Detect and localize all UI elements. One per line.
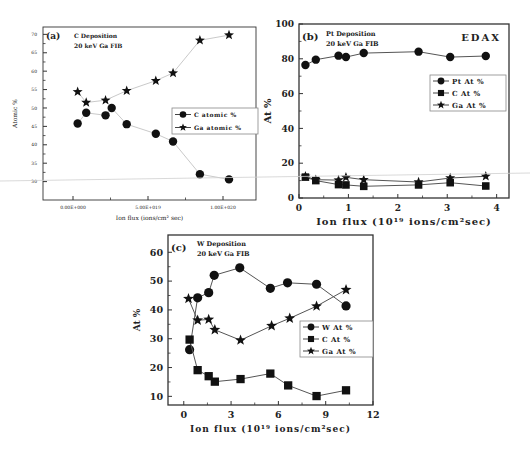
y-tick-label: 60 [281,89,294,99]
legend-square-marker [438,90,444,96]
x-tick-label: 4 [494,203,500,213]
x-tick-label: 0 [296,203,302,213]
x-tick-label: 12 [366,409,379,420]
x-tick-label: 5.00E+019 [135,205,161,210]
y-tick-label: 30 [31,179,37,184]
chart-title: C Deposition [74,32,118,40]
data-point-star-marker [209,324,220,334]
y-tick-label: 50 [31,106,37,111]
data-point-circle-marker [193,293,202,302]
legend: Pt At %C At %Ga At % [430,75,506,111]
data-point-star-marker [183,293,194,303]
legend-circle-marker [308,324,315,331]
data-point-circle-marker [196,170,204,178]
data-point-circle-marker [225,175,233,183]
data-point-circle-marker [73,119,81,127]
data-point-square-marker [211,378,219,386]
data-point-square-marker [312,392,320,400]
x-tick-label: 9 [322,409,329,420]
chart-panel-b: 02040608010001234Ion flux (10¹⁹ ions/cm²… [262,19,509,227]
y-tick-label: 0 [288,193,294,203]
series-line [305,177,485,186]
y-tick-label: 70 [31,32,37,37]
data-point-circle-marker [108,104,116,112]
data-point-circle-marker [204,288,213,297]
data-point-circle-marker [266,284,275,293]
series-line [305,176,485,182]
y-tick-label: 40 [31,142,37,147]
data-point-circle-marker [101,111,109,119]
panel-label: (a) [46,31,60,41]
data-point-square-marker [342,181,350,189]
chart-subtitle: 20 keV Ga FIB [326,40,379,48]
data-point-square-marker [236,375,244,383]
chart-panel-a: 3035404550556065700.00E+0005.00E+0191.00… [11,27,258,221]
data-point-star-marker [122,85,132,95]
x-tick-label: 1 [345,203,351,213]
x-tick-label: 0 [180,409,187,420]
edax-annotation: EDAX [461,32,501,43]
figure-svg: 3035404550556065700.00E+0005.00E+0191.00… [0,0,530,453]
data-point-square-marker [266,369,274,377]
data-point-square-marker [185,335,193,343]
data-point-circle-marker [482,52,490,60]
data-point-star-marker [284,313,295,323]
data-point-circle-marker [169,137,177,145]
x-tick-label: 3 [228,409,235,420]
data-point-star-marker [224,30,234,39]
legend-entry-label: Pt At % [452,77,484,86]
data-point-star-marker [235,334,246,344]
data-point-circle-marker [342,53,350,61]
panel-label: (b) [302,31,318,42]
data-point-square-marker [342,386,350,394]
data-point-star-marker [481,171,491,181]
x-tick-label: 3 [444,203,450,213]
series-circle [301,47,490,69]
y-tick-label: 50 [150,275,164,286]
data-point-square-marker [360,183,368,191]
x-tick-label: 6 [275,409,282,420]
chart-title: Pt Deposition [326,30,376,38]
y-axis-label: At % [132,308,142,332]
legend: W At %C At %Ga At % [300,321,373,357]
y-tick-label: 20 [150,362,164,373]
figure-container: 3035404550556065700.00E+0005.00E+0191.00… [0,0,530,453]
y-axis-label: At % [262,98,273,125]
y-tick-label: 20 [281,158,294,168]
legend: C atomic %Ga atomic % [172,108,258,134]
legend-circle-marker [180,111,187,118]
data-point-star-marker [311,300,322,310]
legend-square-marker [308,336,314,342]
x-tick-label: 2 [395,203,401,213]
y-tick-label: 60 [31,69,37,74]
legend-entry-label: C atomic % [194,111,237,118]
legend-entry-label: W At % [321,323,353,332]
x-axis-label: Ion flux (10¹⁹ ions/cm²sec) [316,216,492,227]
data-point-star-marker [151,75,161,85]
y-tick-label: 35 [31,161,37,166]
data-point-circle-marker [334,51,342,59]
data-point-square-marker [482,182,490,190]
panel-label: (c) [171,242,187,253]
x-tick-label: 1.00E+020 [210,205,236,210]
legend-circle-marker [438,78,445,85]
data-point-circle-marker [283,278,292,287]
y-tick-label: 45 [31,124,37,129]
data-point-circle-marker [312,280,321,289]
data-point-star-marker [203,314,214,324]
legend-entry-label: Ga At % [452,101,486,110]
data-point-star-marker [101,95,111,105]
x-axis-label: Ion flux (10¹⁹ ions/cm²sec) [190,424,351,434]
data-point-circle-marker [360,49,368,57]
data-point-circle-marker [235,263,244,272]
data-point-circle-marker [301,61,309,69]
y-tick-label: 60 [150,247,164,258]
chart-title: W Deposition [196,240,246,248]
data-point-star-marker [266,320,277,330]
chart-subtitle: 20 keV Ga FIB [197,250,250,258]
data-point-star-marker [73,87,83,97]
y-tick-label: 80 [281,54,294,64]
legend-entry-label: Ga At % [322,347,356,356]
legend-entry-label: C At % [452,89,481,98]
data-point-circle-marker [123,120,131,128]
